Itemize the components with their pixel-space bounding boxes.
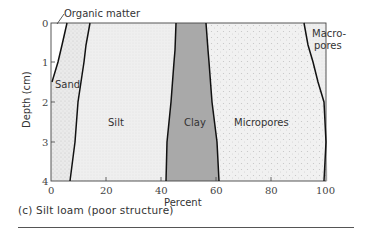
y-axis-label: Depth (cm)	[21, 71, 32, 128]
clay-label: Clay	[184, 117, 206, 128]
silt-label: Silt	[108, 117, 124, 128]
soil-composition-diagram: 0 1 2 3 4 0 20 40 60 80 100 Percent Dept…	[0, 0, 366, 232]
figure-caption: (c) Silt loam (poor structure)	[18, 204, 174, 216]
bottom-rule	[18, 227, 354, 228]
y-tick-1: 1	[42, 57, 48, 68]
micropores-label: Micropores	[234, 117, 289, 128]
x-tick-80: 80	[265, 185, 278, 196]
x-tick-20: 20	[100, 185, 113, 196]
macropores-label-line2: pores	[314, 40, 342, 51]
y-tick-0: 0	[42, 18, 48, 29]
macropores-label-line1: Macro-	[312, 28, 346, 39]
organic-matter-label: Organic matter	[64, 8, 141, 19]
x-tick-60: 60	[210, 185, 223, 196]
x-tick-0: 0	[48, 185, 54, 196]
organic-matter-leader	[57, 14, 64, 24]
y-tick-2: 2	[42, 97, 48, 108]
x-tick-40: 40	[155, 185, 168, 196]
x-tick-100: 100	[316, 185, 335, 196]
y-tick-3: 3	[42, 137, 48, 148]
sand-label: Sand	[55, 79, 80, 90]
